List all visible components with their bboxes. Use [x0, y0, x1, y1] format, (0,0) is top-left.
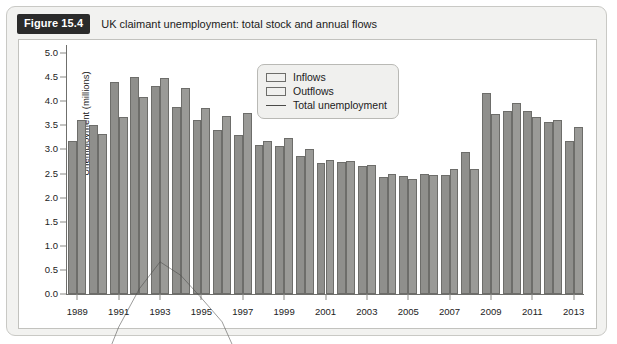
y-tick-mark — [60, 221, 66, 222]
y-tick-mark — [60, 101, 66, 102]
y-tick-mark — [60, 245, 66, 246]
chart-plot-frame: Unemployment (millions) 0.00.51.01.52.02… — [18, 39, 597, 329]
chart-legend: Inflows Outflows Total unemployment — [257, 64, 399, 119]
y-tick-label: 2.0 — [24, 193, 58, 203]
y-tick-label: 1.0 — [24, 241, 58, 251]
y-tick-label: 5.0 — [24, 48, 58, 58]
y-tick-mark — [60, 53, 66, 54]
y-tick-label: 2.5 — [24, 169, 58, 179]
figure-number-tag: Figure 15.4 — [17, 14, 90, 34]
total-unemployment-line-icon — [266, 105, 286, 106]
y-tick-mark — [60, 269, 66, 270]
figure-card: Figure 15.4 UK claimant unemployment: to… — [6, 6, 607, 336]
total-unemployment-line — [77, 262, 573, 344]
y-tick-label: 3.5 — [24, 121, 58, 131]
legend-label-total-unemployment: Total unemployment — [293, 100, 387, 111]
y-tick-label: 0.0 — [24, 289, 58, 299]
legend-item-total-unemployment: Total unemployment — [266, 98, 387, 112]
y-tick-label: 1.5 — [24, 217, 58, 227]
figure-caption: UK claimant unemployment: total stock an… — [90, 14, 377, 34]
outflows-swatch-icon — [266, 87, 286, 96]
y-tick-mark — [60, 294, 66, 295]
y-tick-label: 0.5 — [24, 265, 58, 275]
y-tick-mark — [60, 77, 66, 78]
figure-header: Figure 15.4 UK claimant unemployment: to… — [17, 14, 377, 34]
inflows-swatch-icon — [266, 73, 286, 82]
legend-item-outflows: Outflows — [266, 84, 387, 98]
legend-item-inflows: Inflows — [266, 70, 387, 84]
y-tick-mark — [60, 173, 66, 174]
y-tick-label: 4.5 — [24, 72, 58, 82]
y-tick-label: 4.0 — [24, 96, 58, 106]
legend-label-inflows: Inflows — [293, 72, 326, 83]
y-tick-mark — [60, 149, 66, 150]
y-tick-label: 3.0 — [24, 145, 58, 155]
y-tick-mark — [60, 197, 66, 198]
legend-label-outflows: Outflows — [293, 86, 334, 97]
y-tick-mark — [60, 125, 66, 126]
